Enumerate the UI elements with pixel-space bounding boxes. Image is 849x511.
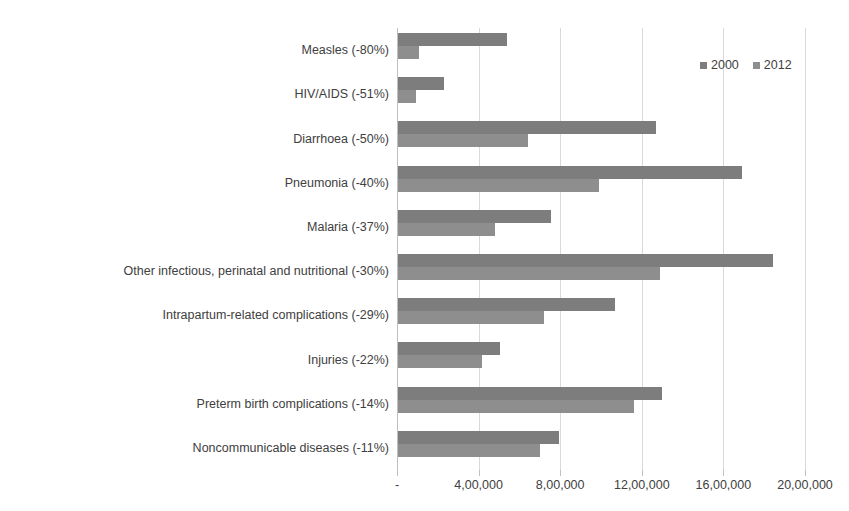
category-label: HIV/AIDS (-51%)	[0, 87, 389, 101]
plot-area	[397, 28, 805, 470]
bar-rows	[397, 28, 805, 470]
x-tick-label: 4,00,000	[454, 478, 503, 492]
category-label: Diarrhoea (-50%)	[0, 132, 389, 146]
category-label: Malaria (-37%)	[0, 220, 389, 234]
bar-2012	[397, 311, 544, 324]
bar-2000	[397, 387, 662, 400]
category-label: Pneumonia (-40%)	[0, 176, 389, 190]
bar-2012	[397, 400, 634, 413]
bar-group	[397, 426, 805, 470]
bar-2000	[397, 254, 773, 267]
legend-swatch-icon	[700, 62, 707, 69]
category-label: Noncommunicable diseases (-11%)	[0, 441, 389, 455]
x-tick-label: 12,00,000	[614, 478, 670, 492]
bar-2012	[397, 90, 416, 103]
bar-2012	[397, 179, 599, 192]
legend-label: 2012	[764, 58, 792, 72]
bar-group	[397, 249, 805, 293]
x-axis-labels: -4,00,0008,00,00012,00,00016,00,00020,00…	[0, 478, 849, 498]
bar-2012	[397, 267, 660, 280]
bar-2012	[397, 134, 528, 147]
bar-2000	[397, 342, 500, 355]
x-tick-label: -	[395, 478, 399, 492]
x-tick-1	[479, 470, 480, 476]
x-tick-label: 8,00,000	[536, 478, 585, 492]
bar-group	[397, 205, 805, 249]
x-tick-0	[397, 470, 398, 476]
bar-2012	[397, 46, 419, 59]
bar-2012	[397, 355, 482, 368]
category-label: Preterm birth complications (-14%)	[0, 397, 389, 411]
x-tick-2	[560, 470, 561, 476]
bar-2012	[397, 223, 495, 236]
category-label: Injuries (-22%)	[0, 353, 389, 367]
category-label: Other infectious, perinatal and nutritio…	[0, 264, 389, 278]
bar-2000	[397, 33, 507, 46]
bar-2000	[397, 77, 444, 90]
bar-2000	[397, 121, 656, 134]
x-tick-label: 20,00,000	[777, 478, 833, 492]
y-axis-line	[397, 28, 398, 470]
bar-group	[397, 72, 805, 116]
x-tick-4	[723, 470, 724, 476]
x-tick-label: 16,00,000	[696, 478, 752, 492]
bar-group	[397, 382, 805, 426]
bar-group	[397, 337, 805, 381]
bar-group	[397, 116, 805, 160]
chart-legend: 20002012	[700, 58, 792, 72]
bar-2000	[397, 166, 742, 179]
legend-label: 2000	[711, 58, 739, 72]
legend-item-2000: 2000	[700, 58, 739, 72]
bar-chart: Measles (-80%)HIV/AIDS (-51%)Diarrhoea (…	[0, 0, 849, 511]
bar-group	[397, 161, 805, 205]
bar-2000	[397, 210, 551, 223]
bar-group	[397, 293, 805, 337]
bar-2000	[397, 298, 615, 311]
bar-2000	[397, 431, 559, 444]
legend-swatch-icon	[753, 62, 760, 69]
category-label: Measles (-80%)	[0, 43, 389, 57]
gridline-5	[805, 28, 806, 470]
x-axis-ticks	[397, 470, 805, 476]
x-tick-5	[805, 470, 806, 476]
category-axis-labels: Measles (-80%)HIV/AIDS (-51%)Diarrhoea (…	[0, 28, 389, 470]
bar-2012	[397, 444, 540, 457]
x-tick-3	[642, 470, 643, 476]
category-label: Intrapartum-related complications (-29%)	[0, 308, 389, 322]
legend-item-2012: 2012	[753, 58, 792, 72]
